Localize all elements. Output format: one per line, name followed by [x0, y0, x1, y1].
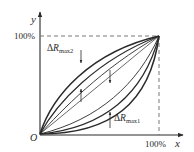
- delta-max1-label: ΔRmax1: [114, 113, 140, 124]
- y-axis-label: y: [30, 13, 36, 25]
- nonlinearity-diagram: y x O 100% 100% ΔRmax2 ΔRmax1: [0, 0, 194, 152]
- delta-max2-label: ΔRmax2: [47, 43, 73, 54]
- x-axis-label: x: [174, 137, 180, 149]
- x-max-label: 100%: [145, 139, 167, 149]
- y-max-label: 100%: [14, 31, 36, 41]
- origin-label: O: [30, 132, 37, 143]
